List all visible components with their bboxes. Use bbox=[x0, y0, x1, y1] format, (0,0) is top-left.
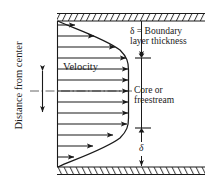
velocity-arrows bbox=[58, 25, 128, 157]
duct-wall-bottom bbox=[57, 167, 205, 175]
velocity-label: Velocity bbox=[63, 62, 98, 73]
delta-bottom-label: δ bbox=[139, 144, 143, 154]
boundary-layer-thickness-line2: layer thickness bbox=[130, 37, 187, 47]
core-freestream-line2: freestream bbox=[134, 96, 174, 106]
boundary-layer-thickness-label: δ = Boundary layer thickness bbox=[130, 27, 187, 47]
distance-from-center-axis-label: Distance from center bbox=[13, 31, 24, 141]
duct-wall-top bbox=[57, 14, 205, 22]
core-freestream-label: Core or freestream bbox=[134, 86, 174, 106]
velocity-profile-curve bbox=[58, 21, 129, 167]
